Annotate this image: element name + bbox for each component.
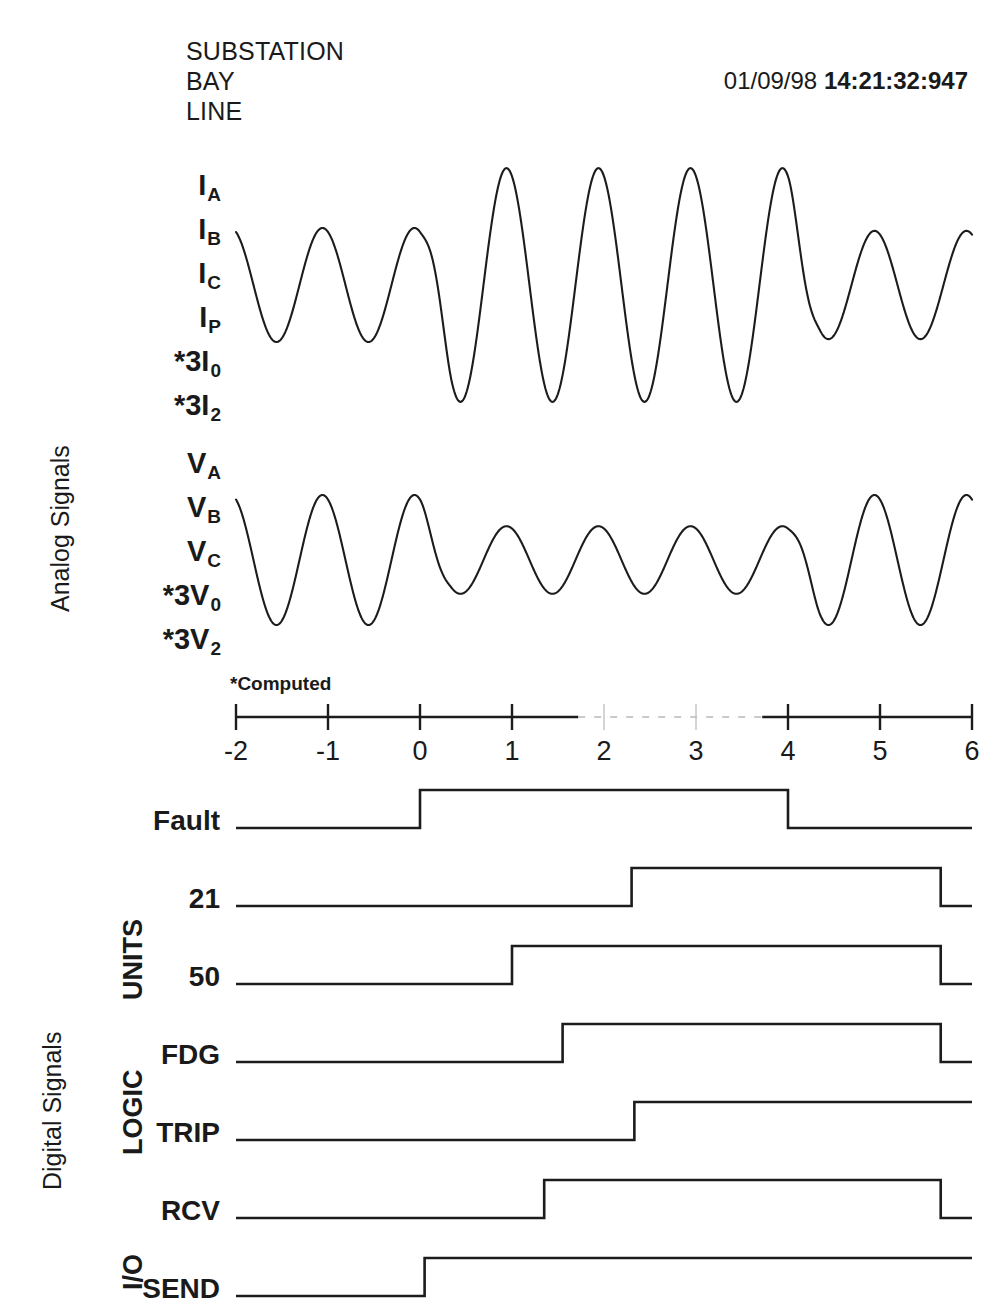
channel-base: V xyxy=(187,447,206,479)
digital-row-label-fault: Fault xyxy=(30,806,220,836)
header-line-substation: SUBSTATION xyxy=(186,36,344,66)
channel-subscript: 2 xyxy=(210,638,221,659)
digital-trace-50 xyxy=(236,946,972,984)
channel-base: I xyxy=(198,213,206,245)
voltage-waveform-plot xyxy=(236,440,972,680)
digital-traces-svg xyxy=(236,790,972,1300)
digital-row-label-send: SEND xyxy=(30,1274,220,1304)
digital-trace-fdg xyxy=(236,1024,972,1062)
voltage-trace xyxy=(236,495,972,625)
digital-trace-21 xyxy=(236,868,972,906)
time-axis-tick-label-3: 1 xyxy=(504,736,519,767)
time-axis-tick-label-6: 4 xyxy=(780,736,795,767)
voltage-channel-label-0: VA xyxy=(100,443,220,487)
current-waveform-svg xyxy=(236,160,972,410)
time-axis-tick-label-0: -2 xyxy=(224,736,248,767)
header-line-line: LINE xyxy=(186,96,344,126)
channel-base: V xyxy=(187,535,206,567)
voltage-channel-label-1: VB xyxy=(100,487,220,531)
digital-trace-trip xyxy=(236,1102,972,1140)
time-axis-tick-label-8: 6 xyxy=(964,736,979,767)
voltage-channel-label-4: *3V2 xyxy=(100,619,220,663)
header-line-bay: BAY xyxy=(186,66,344,96)
channel-base: I xyxy=(199,301,207,333)
digital-trace-send xyxy=(236,1258,972,1296)
current-channel-label-1: IB xyxy=(100,209,220,253)
digital-traces-plot xyxy=(236,790,972,1300)
current-channel-label-3: IP xyxy=(100,297,220,341)
time-axis-svg xyxy=(236,700,972,734)
channel-subscript: A xyxy=(207,462,221,483)
record-timestamp: 01/09/98 14:21:32:947 xyxy=(697,36,968,126)
channel-base: *3I xyxy=(174,389,209,421)
channel-subscript: 2 xyxy=(210,404,221,425)
time-axis-tick-label-2: 0 xyxy=(412,736,427,767)
channel-base: I xyxy=(198,257,206,289)
channel-subscript: P xyxy=(208,316,221,337)
digital-row-label-rcv: RCV xyxy=(30,1196,220,1226)
channel-subscript: 0 xyxy=(210,360,221,381)
channel-base: *3I xyxy=(174,345,209,377)
channel-subscript: 0 xyxy=(210,594,221,615)
channel-subscript: A xyxy=(207,184,221,205)
voltage-waveform-svg xyxy=(236,440,972,680)
channel-subscript: C xyxy=(207,272,221,293)
time-axis: -2-10123456 xyxy=(236,700,972,780)
current-channel-label-4: *3I0 xyxy=(100,341,220,385)
channel-subscript: C xyxy=(207,550,221,571)
digital-trace-fault xyxy=(236,790,972,828)
digital-row-label-trip: TRIP xyxy=(30,1118,220,1148)
analog-signals-section-label: Analog Signals xyxy=(46,445,75,612)
channel-base: *3V xyxy=(163,623,210,655)
channel-base: I xyxy=(198,169,206,201)
fault-record-page: SUBSTATION BAY LINE 01/09/98 14:21:32:94… xyxy=(0,0,996,1308)
record-date: 01/09/98 xyxy=(724,67,817,94)
current-channel-label-2: IC xyxy=(100,253,220,297)
current-waveform-plot xyxy=(236,160,972,410)
record-time: 14:21:32:947 xyxy=(824,67,968,94)
substation-header: SUBSTATION BAY LINE xyxy=(186,36,344,126)
channel-subscript: B xyxy=(207,228,221,249)
channel-subscript: B xyxy=(207,506,221,527)
voltage-channel-labels: VAVBVC*3V0*3V2 xyxy=(100,443,220,663)
time-axis-tick-label-7: 5 xyxy=(872,736,887,767)
time-axis-tick-label-5: 3 xyxy=(688,736,703,767)
current-channel-label-0: IA xyxy=(100,165,220,209)
digital-row-label-21: 21 xyxy=(30,884,220,914)
digital-row-label-fdg: FDG xyxy=(30,1040,220,1070)
time-axis-tick-label-4: 2 xyxy=(596,736,611,767)
time-axis-tick-label-1: -1 xyxy=(316,736,340,767)
digital-row-label-50: 50 xyxy=(30,962,220,992)
voltage-channel-label-3: *3V0 xyxy=(100,575,220,619)
digital-trace-rcv xyxy=(236,1180,972,1218)
current-channel-label-5: *3I2 xyxy=(100,385,220,429)
voltage-channel-label-2: VC xyxy=(100,531,220,575)
current-trace xyxy=(236,168,972,402)
current-channel-labels: IAIBICIP*3I0*3I2 xyxy=(100,165,220,429)
channel-base: *3V xyxy=(163,579,210,611)
channel-base: V xyxy=(187,491,206,523)
